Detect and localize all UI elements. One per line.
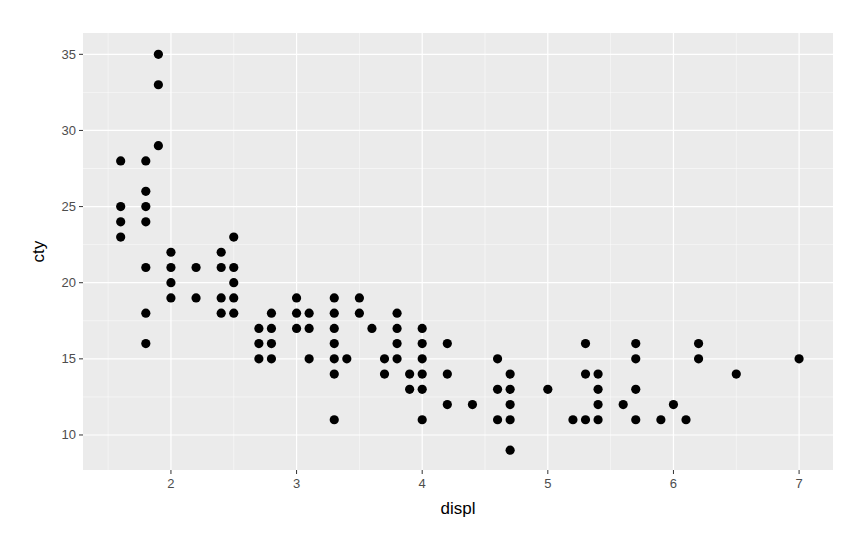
data-point bbox=[418, 369, 427, 378]
data-point bbox=[229, 309, 238, 318]
data-point bbox=[330, 339, 339, 348]
data-point bbox=[443, 339, 452, 348]
data-point bbox=[217, 293, 226, 302]
data-point bbox=[581, 415, 590, 424]
data-point bbox=[681, 415, 690, 424]
data-point bbox=[330, 293, 339, 302]
data-point bbox=[506, 385, 515, 394]
data-point bbox=[380, 369, 389, 378]
data-point bbox=[468, 400, 477, 409]
data-point bbox=[392, 324, 401, 333]
data-point bbox=[669, 400, 678, 409]
x-tick-label: 7 bbox=[795, 476, 802, 491]
data-point bbox=[116, 202, 125, 211]
data-point bbox=[418, 385, 427, 394]
data-point bbox=[493, 415, 502, 424]
x-axis-title: displ bbox=[441, 499, 476, 518]
data-point bbox=[631, 385, 640, 394]
data-point bbox=[568, 415, 577, 424]
data-point bbox=[191, 293, 200, 302]
data-point bbox=[418, 339, 427, 348]
data-point bbox=[217, 309, 226, 318]
data-point bbox=[229, 278, 238, 287]
y-tick-label: 30 bbox=[62, 123, 76, 138]
data-point bbox=[694, 354, 703, 363]
data-point bbox=[794, 354, 803, 363]
data-point bbox=[732, 369, 741, 378]
data-point bbox=[330, 369, 339, 378]
data-point bbox=[493, 354, 502, 363]
data-point bbox=[229, 263, 238, 272]
data-point bbox=[267, 324, 276, 333]
data-point bbox=[355, 293, 364, 302]
data-point bbox=[292, 324, 301, 333]
data-point bbox=[292, 309, 301, 318]
data-point bbox=[506, 400, 515, 409]
data-point bbox=[267, 354, 276, 363]
data-point bbox=[154, 50, 163, 59]
data-point bbox=[330, 354, 339, 363]
data-point bbox=[506, 446, 515, 455]
data-point bbox=[141, 263, 150, 272]
data-point bbox=[254, 354, 263, 363]
data-point bbox=[141, 309, 150, 318]
data-point bbox=[154, 141, 163, 150]
data-point bbox=[254, 324, 263, 333]
x-tick-label: 5 bbox=[544, 476, 551, 491]
data-point bbox=[191, 263, 200, 272]
data-point bbox=[380, 354, 389, 363]
y-tick-label: 25 bbox=[62, 199, 76, 214]
data-point bbox=[292, 293, 301, 302]
data-point bbox=[631, 354, 640, 363]
plot-panel bbox=[83, 33, 833, 470]
data-point bbox=[443, 369, 452, 378]
data-point bbox=[581, 339, 590, 348]
data-point bbox=[418, 415, 427, 424]
y-tick-label: 15 bbox=[62, 351, 76, 366]
y-tick-label: 20 bbox=[62, 275, 76, 290]
data-point bbox=[217, 248, 226, 257]
data-point bbox=[305, 309, 314, 318]
data-point bbox=[116, 156, 125, 165]
x-axis: 234567 bbox=[167, 470, 802, 491]
data-point bbox=[405, 369, 414, 378]
data-point bbox=[392, 309, 401, 318]
data-point bbox=[166, 263, 175, 272]
data-point bbox=[229, 232, 238, 241]
data-point bbox=[267, 339, 276, 348]
data-point bbox=[330, 415, 339, 424]
data-point bbox=[593, 400, 602, 409]
data-point bbox=[506, 415, 515, 424]
x-tick-label: 3 bbox=[293, 476, 300, 491]
data-point bbox=[141, 187, 150, 196]
y-tick-label: 35 bbox=[62, 47, 76, 62]
scatter-chart: 234567 101520253035 displ cty bbox=[0, 0, 861, 541]
data-point bbox=[355, 309, 364, 318]
data-point bbox=[116, 232, 125, 241]
data-point bbox=[631, 339, 640, 348]
x-tick-label: 2 bbox=[167, 476, 174, 491]
x-tick-label: 4 bbox=[419, 476, 426, 491]
data-point bbox=[631, 415, 640, 424]
data-point bbox=[543, 385, 552, 394]
data-point bbox=[619, 400, 628, 409]
data-point bbox=[166, 278, 175, 287]
data-point bbox=[392, 339, 401, 348]
data-point bbox=[418, 324, 427, 333]
data-point bbox=[342, 354, 351, 363]
data-point bbox=[229, 293, 238, 302]
x-tick-label: 6 bbox=[670, 476, 677, 491]
y-tick-label: 10 bbox=[62, 427, 76, 442]
data-point bbox=[254, 339, 263, 348]
data-point bbox=[267, 309, 276, 318]
y-axis-title: cty bbox=[29, 240, 48, 262]
data-point bbox=[305, 354, 314, 363]
data-point bbox=[141, 156, 150, 165]
chart-canvas: 234567 101520253035 displ cty bbox=[0, 0, 861, 541]
data-point bbox=[217, 263, 226, 272]
data-point bbox=[581, 369, 590, 378]
data-point bbox=[141, 217, 150, 226]
data-point bbox=[405, 385, 414, 394]
data-point bbox=[593, 415, 602, 424]
y-axis: 101520253035 bbox=[62, 47, 83, 443]
